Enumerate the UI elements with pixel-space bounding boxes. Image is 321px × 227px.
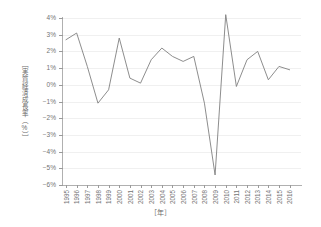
- x-tick-label: 2007: [191, 190, 198, 204]
- y-tick-label: −5%: [30, 164, 56, 171]
- x-tick-mark: [204, 185, 205, 188]
- y-tick-mark: [59, 118, 63, 119]
- x-tick-label: 1996: [73, 190, 80, 204]
- x-tick-label: 2015: [276, 190, 283, 204]
- x-tick-label: 2001: [127, 190, 134, 204]
- y-tick-mark: [59, 68, 63, 69]
- x-tick-label: 1997: [84, 190, 91, 204]
- x-tick-label: 1995: [63, 190, 70, 204]
- x-tick-label: 2014: [265, 190, 272, 204]
- x-tick-label: 2010: [223, 190, 230, 204]
- x-tick-label: 2004: [159, 190, 166, 204]
- y-tick-mark: [59, 152, 63, 153]
- x-tick-mark: [290, 185, 291, 188]
- y-tick-label: 3%: [30, 31, 56, 38]
- x-tick-mark: [130, 185, 131, 188]
- x-tick-mark: [258, 185, 259, 188]
- x-tick-label: 2000: [116, 190, 123, 204]
- y-tick-label: 2%: [30, 47, 56, 54]
- y-tick-mark: [59, 168, 63, 169]
- x-tick-mark: [268, 185, 269, 188]
- y-tick-mark: [59, 35, 63, 36]
- y-tick-mark: [59, 85, 63, 86]
- y-tick-label: 1%: [30, 64, 56, 71]
- x-tick-mark: [279, 185, 280, 188]
- x-tick-mark: [109, 185, 110, 188]
- real-economic-growth-rate-line-chart: ［実質経済成長率（%）］ ［年］ 4%3%2%1%0%−1%−2%−3%−4%−…: [0, 0, 321, 227]
- x-tick-mark: [226, 185, 227, 188]
- x-axis-title: ［年］: [0, 207, 321, 217]
- x-tick-mark: [236, 185, 237, 188]
- y-tick-mark: [59, 102, 63, 103]
- data-series-line: [66, 15, 290, 175]
- x-tick-mark: [183, 185, 184, 188]
- y-tick-label: −2%: [30, 114, 56, 121]
- x-tick-mark: [77, 185, 78, 188]
- x-tick-mark: [151, 185, 152, 188]
- y-tick-label: 4%: [30, 14, 56, 21]
- y-tick-mark: [59, 18, 63, 19]
- x-tick-mark: [162, 185, 163, 188]
- x-tick-label: 2016: [286, 190, 293, 204]
- x-tick-mark: [87, 185, 88, 188]
- x-tick-label: 2009: [212, 190, 219, 204]
- x-tick-label: 2002: [137, 190, 144, 204]
- x-tick-label: 1998: [95, 190, 102, 204]
- y-tick-label: 0%: [30, 81, 56, 88]
- x-tick-label: 2011: [233, 190, 240, 204]
- y-tick-label: −3%: [30, 131, 56, 138]
- x-tick-mark: [194, 185, 195, 188]
- x-tick-mark: [119, 185, 120, 188]
- y-tick-label: −4%: [30, 148, 56, 155]
- y-tick-label: −6%: [30, 181, 56, 188]
- x-tick-label: 2012: [244, 190, 251, 204]
- x-tick-label: 2008: [201, 190, 208, 204]
- x-tick-label: 2003: [148, 190, 155, 204]
- x-tick-label: 2005: [169, 190, 176, 204]
- y-tick-mark: [59, 135, 63, 136]
- x-tick-mark: [172, 185, 173, 188]
- y-tick-mark: [59, 51, 63, 52]
- x-tick-label: 2013: [254, 190, 261, 204]
- x-tick-mark: [98, 185, 99, 188]
- x-tick-label: 1999: [105, 190, 112, 204]
- x-tick-mark: [215, 185, 216, 188]
- x-tick-mark: [141, 185, 142, 188]
- y-tick-mark: [59, 185, 63, 186]
- x-tick-mark: [66, 185, 67, 188]
- x-tick-label: 2006: [180, 190, 187, 204]
- y-tick-label: −1%: [30, 98, 56, 105]
- x-tick-mark: [247, 185, 248, 188]
